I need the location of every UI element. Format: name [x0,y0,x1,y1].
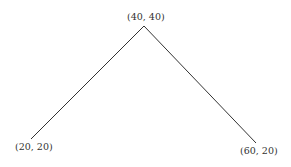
point-label-left: (20, 20) [15,141,53,152]
point-label-apex: (40, 40) [127,11,165,22]
point-label-right: (60, 20) [240,145,278,156]
diagram-canvas: (20, 20) (40, 40) (60, 20) [0,0,291,167]
right-edge [144,26,256,143]
left-edge [31,26,144,139]
